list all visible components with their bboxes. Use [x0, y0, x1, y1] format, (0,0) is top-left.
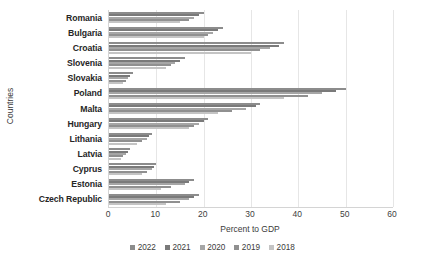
bar — [109, 67, 166, 69]
category-label: Bulgaria — [18, 25, 106, 40]
y-axis-title-text: Countries — [5, 88, 15, 124]
legend-swatch-icon — [165, 245, 170, 250]
bar — [109, 36, 204, 38]
category-label: Hungary — [18, 116, 106, 131]
legend-item[interactable]: 2021 — [165, 243, 191, 252]
legend-label: 2020 — [207, 243, 225, 252]
y-axis-title: Countries — [2, 0, 18, 212]
legend-swatch-icon — [269, 245, 274, 250]
x-tick-label: 30 — [245, 209, 254, 219]
legend-item[interactable]: 2018 — [269, 243, 295, 252]
category-label: Slovakia — [18, 71, 106, 86]
legend-swatch-icon — [130, 245, 135, 250]
legend-label: 2019 — [242, 243, 260, 252]
bar-chart: Countries RomaniaBulgariaCroatiaSlovenia… — [0, 0, 425, 268]
bar-groups — [109, 10, 393, 207]
x-tick-label: 0 — [106, 209, 111, 219]
bar-group — [109, 146, 393, 161]
bar-group — [109, 131, 393, 146]
x-tick-label: 20 — [198, 209, 207, 219]
legend-label: 2021 — [172, 243, 190, 252]
bar-group — [109, 116, 393, 131]
category-label: Malta — [18, 101, 106, 116]
bar-group — [109, 192, 393, 207]
category-label: Czech Republic — [18, 192, 106, 207]
legend-item[interactable]: 2019 — [234, 243, 260, 252]
legend-label: 2018 — [277, 243, 295, 252]
bar — [109, 21, 180, 23]
x-tick-label: 50 — [340, 209, 349, 219]
bar — [109, 52, 251, 54]
bar-group — [109, 162, 393, 177]
category-label: Croatia — [18, 40, 106, 55]
x-axis-line — [108, 207, 393, 208]
category-label: Poland — [18, 86, 106, 101]
legend-item[interactable]: 2022 — [130, 243, 156, 252]
gridline — [393, 10, 394, 207]
legend-swatch-icon — [200, 245, 205, 250]
bar-group — [109, 71, 393, 86]
legend-item[interactable]: 2020 — [200, 243, 226, 252]
bar — [109, 143, 137, 145]
bar-group — [109, 25, 393, 40]
bar — [109, 203, 166, 205]
legend-label: 2022 — [138, 243, 156, 252]
category-label: Estonia — [18, 177, 106, 192]
bar — [109, 173, 142, 175]
bar — [109, 97, 284, 99]
category-axis-labels: RomaniaBulgariaCroatiaSloveniaSlovakiaPo… — [18, 10, 106, 207]
category-label: Slovenia — [18, 55, 106, 70]
bar — [109, 127, 189, 129]
category-label: Lithania — [18, 131, 106, 146]
x-axis-title: Percent to GDP — [108, 224, 392, 234]
bar-group — [109, 55, 393, 70]
bar-group — [109, 40, 393, 55]
x-axis-tick-labels: 0102030405060 — [108, 209, 392, 223]
bar — [109, 158, 121, 160]
category-label: Latvia — [18, 146, 106, 161]
bar-group — [109, 177, 393, 192]
category-label: Cyprus — [18, 162, 106, 177]
legend-swatch-icon — [234, 245, 239, 250]
plot-area — [108, 10, 393, 207]
x-tick-label: 40 — [293, 209, 302, 219]
x-tick-label: 60 — [387, 209, 396, 219]
bar-group — [109, 101, 393, 116]
bar-group — [109, 10, 393, 25]
bar — [109, 188, 161, 190]
bar-group — [109, 86, 393, 101]
x-tick-label: 10 — [151, 209, 160, 219]
chart-legend: 20222021202020192018 — [0, 243, 425, 252]
bar — [109, 112, 218, 114]
bar — [109, 82, 123, 84]
category-label: Romania — [18, 10, 106, 25]
